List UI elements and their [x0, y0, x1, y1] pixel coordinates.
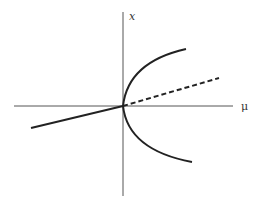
- stable-branch-left: [31, 106, 123, 128]
- x-axis-label: x: [129, 10, 136, 23]
- unstable-branch-dashed: [123, 78, 219, 106]
- mu-axis-label: μ: [241, 100, 248, 113]
- bifurcation-diagram: x μ: [0, 0, 261, 205]
